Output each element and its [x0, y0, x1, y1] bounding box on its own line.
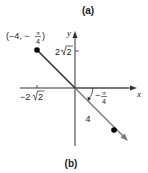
svg-text:2: 2 — [38, 92, 43, 102]
angle-label: − π 4 — [95, 89, 107, 105]
part-a-label: (a) — [82, 5, 94, 16]
x-tick-label: −2 2 — [20, 91, 45, 102]
svg-text:(−4, −: (−4, − — [6, 31, 30, 41]
svg-text:π: π — [36, 29, 40, 37]
svg-text:4: 4 — [36, 38, 40, 45]
part-b-label: (b) — [65, 158, 78, 169]
polar-point-dot — [34, 47, 40, 53]
radius-label: 4 — [85, 114, 90, 124]
svg-text:4: 4 — [102, 98, 106, 105]
point-label: (−4, − π 4 ) — [6, 29, 45, 45]
svg-text:): ) — [42, 31, 45, 41]
polar-coordinate-diagram: (a) y 2 2 x −2 2 − π 4 4 (−4, − — [0, 0, 148, 173]
y-axis-arrow-icon — [73, 31, 78, 38]
svg-text:π: π — [102, 89, 106, 97]
svg-text:2: 2 — [55, 47, 60, 57]
reflected-point-dot — [111, 127, 117, 133]
svg-text:−: − — [95, 90, 100, 100]
svg-text:2: 2 — [67, 47, 72, 57]
x-axis-label: x — [136, 89, 141, 99]
svg-text:−2: −2 — [20, 92, 30, 102]
y-tick-label: 2 2 — [55, 46, 73, 57]
y-axis-label: y — [66, 28, 71, 38]
x-axis-arrow-icon — [130, 86, 137, 91]
